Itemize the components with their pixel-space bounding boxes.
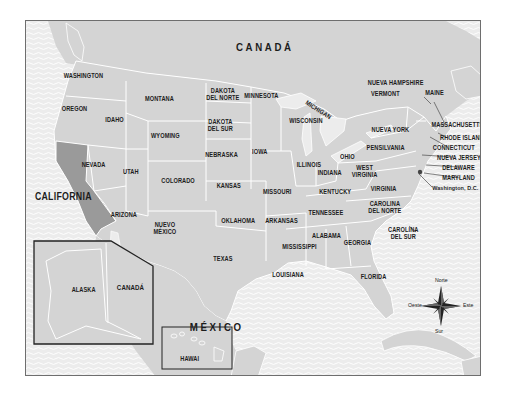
label-nuevo-mexico-line2: MÉXICO — [154, 228, 177, 235]
label-nevada: NEVADA — [82, 161, 106, 168]
label-carolina-norte: CAROLINA DEL NORTE — [368, 200, 401, 214]
label-alabama: ALABAMA — [312, 232, 341, 239]
label-west-virginia: WEST VIRGINIA — [352, 164, 378, 178]
label-texas: TEXAS — [213, 255, 232, 262]
label-washington-dc: Washington, D.C. — [432, 184, 478, 191]
hawaii-inset — [162, 327, 232, 369]
label-wyoming: WYOMING — [151, 132, 180, 139]
label-arkansas: ARKANSAS — [265, 217, 298, 224]
compass-south-label: Sur — [435, 328, 443, 334]
label-georgia: GEORGIA — [344, 239, 371, 246]
label-maryland: MARYLAND — [442, 174, 475, 181]
label-illinois: ILLINOIS — [297, 161, 321, 168]
label-dakota-norte-line2: DEL NORTE — [206, 94, 239, 101]
label-massachusetts: MASSACHUSETTS — [432, 121, 481, 128]
label-dakota-sur: DAKOTA DEL SUR — [208, 118, 233, 132]
label-canada: CANADÁ — [236, 41, 294, 53]
label-nuevo-mexico: NUEVO MÉXICO — [154, 221, 177, 235]
label-oregon: OREGON — [62, 105, 88, 112]
label-iowa: IOWA — [252, 148, 267, 155]
compass-north-label: Norte — [435, 277, 448, 283]
label-arizona: ARIZONA — [111, 211, 137, 218]
label-vermont: VERMONT — [371, 90, 400, 97]
label-mexico: MÉXICO — [190, 321, 244, 333]
label-hawaii: HAWAI — [180, 355, 199, 362]
label-alaska: ALASKA — [72, 286, 96, 293]
label-carolina-norte-line2: DEL NORTE — [368, 207, 401, 214]
label-minnesota: MINNESOTA — [244, 92, 278, 99]
label-maine: MAINE — [425, 89, 444, 96]
label-florida: FLORIDA — [361, 273, 387, 280]
label-west-virginia-line2: VIRGINIA — [352, 171, 378, 178]
label-oklahoma: OKLAHOMA — [221, 217, 255, 224]
label-alaska-canada: CANADÁ — [117, 284, 144, 291]
label-kentucky: KENTUCKY — [319, 188, 351, 195]
label-pensilvania: PENSILVANIA — [367, 144, 405, 151]
label-washington: WASHINGTON — [64, 72, 104, 79]
label-virginia: VIRGINIA — [371, 185, 397, 192]
label-nueva-jersey: NUEVA JERSEY — [437, 154, 481, 161]
label-nuevo-mexico-line1: NUEVO — [155, 221, 175, 228]
label-kansas: KANSAS — [217, 182, 241, 189]
label-tennessee: TENNESSEE — [308, 209, 343, 216]
label-carolina-sur-line1: CAROLINA — [388, 226, 418, 233]
label-carolina-sur: CAROLINA DEL SUR — [388, 226, 418, 240]
label-dakota-norte-line1: DAKOTA — [211, 87, 235, 94]
compass-west-label: Oeste — [408, 302, 422, 308]
label-missouri: MISSOURI — [263, 188, 292, 195]
label-montana: MONTANA — [145, 95, 174, 102]
label-dakota-sur-line1: DAKOTA — [208, 118, 232, 125]
label-nueva-hampshire: NUEVA HAMPSHIRE — [368, 79, 424, 86]
label-carolina-norte-line1: CAROLINA — [370, 200, 400, 207]
label-colorado: COLORADO — [161, 177, 195, 184]
label-rhode-island: RHODE ISLAND — [440, 134, 481, 141]
washington-dc-marker — [418, 170, 422, 174]
label-wisconsin: WISCONSIN — [289, 117, 322, 124]
label-nebraska: NEBRASKA — [205, 151, 238, 158]
compass-east-label: Este — [463, 302, 473, 308]
label-mississippi: MISSISSIPPI — [282, 243, 316, 250]
label-idaho: IDAHO — [105, 116, 124, 123]
label-connecticut: CONNECTICUT — [433, 144, 475, 151]
label-louisiana: LOUISIANA — [272, 271, 304, 278]
label-dakota-norte: DAKOTA DEL NORTE — [206, 87, 239, 101]
label-delaware: DELAWARE — [442, 164, 475, 171]
label-ohio: OHIO — [340, 153, 355, 160]
label-west-virginia-line1: WEST — [356, 164, 373, 171]
label-nueva-york: NUEVA YORK — [372, 126, 410, 133]
map-frame: CANADÁ MÉXICO CALIFORNIA WASHINGTON OREG… — [25, 20, 481, 376]
label-carolina-sur-line2: DEL SUR — [391, 233, 416, 240]
label-utah: UTAH — [123, 168, 139, 175]
label-california: CALIFORNIA — [35, 191, 92, 202]
label-indiana: INDIANA — [318, 169, 342, 176]
label-dakota-sur-line2: DEL SUR — [208, 125, 233, 132]
